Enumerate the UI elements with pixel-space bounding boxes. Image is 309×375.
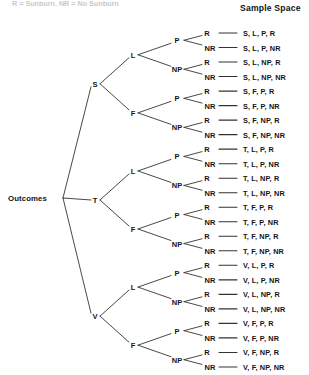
sample-space-outcome: V, F, NP, R	[243, 348, 279, 357]
sample-space-outcome: T, F, NP, R	[243, 232, 279, 241]
node-level1-S: S	[92, 79, 97, 88]
sample-space-outcome: V, F, P, R	[243, 319, 274, 328]
sample-space-outcome: V, L, P, NR	[243, 275, 280, 284]
sample-space-outcome: S, L, P, R	[243, 29, 275, 38]
node-level3-NP-5: NP	[172, 181, 183, 190]
leaf-branch-label: R	[204, 261, 210, 270]
leaf-branch-label: R	[204, 203, 210, 212]
sample-space-outcome: S, L, P, NR	[243, 43, 281, 52]
node-level2-F-5: F	[131, 341, 136, 350]
sample-space-outcome: V, L, NP, NR	[243, 304, 285, 313]
leaf-branch-label: NR	[204, 275, 215, 284]
node-level3-NP-7: NP	[172, 239, 183, 248]
node-level1-V: V	[92, 312, 97, 321]
sample-space-outcome: S, F, P, R	[243, 87, 274, 96]
sample-space-outcome: S, L, NP, R	[243, 58, 281, 67]
leaf-branch-label: R	[204, 319, 210, 328]
leaf-branch-label: R	[204, 145, 210, 154]
leaf-branch-label: NR	[204, 217, 215, 226]
node-level3-P-10: P	[174, 326, 179, 335]
sample-space-outcome: T, F, P, R	[243, 203, 273, 212]
sample-space-outcome: S, L, NP, NR	[243, 72, 286, 81]
leaf-branch-label: NR	[204, 43, 215, 52]
node-level3-NP-1: NP	[172, 65, 183, 74]
node-level3-NP-3: NP	[172, 123, 183, 132]
sample-space-outcome: S, F, NP, R	[243, 116, 280, 125]
node-level3-P-2: P	[174, 94, 179, 103]
node-level1-T: T	[93, 195, 98, 204]
sample-space-header: Sample Space	[240, 3, 301, 13]
leaf-branch-label: NR	[204, 101, 215, 110]
sample-space-outcome: T, L, NP, R	[243, 174, 279, 183]
sample-space-outcome: S, F, P, NR	[243, 101, 280, 110]
leaf-branch-label: R	[204, 58, 210, 67]
node-level3-P-4: P	[174, 152, 179, 161]
sample-space-outcome: V, F, P, NR	[243, 333, 279, 342]
sample-space-outcome: T, L, P, NR	[243, 159, 279, 168]
leaf-branch-label: NR	[204, 159, 215, 168]
node-level2-L-0: L	[131, 50, 136, 59]
node-level3-P-8: P	[174, 268, 179, 277]
sample-space-outcome: T, L, P, R	[243, 145, 274, 154]
leaf-branch-label: R	[204, 348, 210, 357]
leaf-branch-label: NR	[204, 304, 215, 313]
node-level2-F-1: F	[131, 108, 136, 117]
leaf-branch-label: NR	[204, 333, 215, 342]
leaf-branch-label: NR	[204, 246, 215, 255]
top-cut-caption: R = Sunburn, NR = No Sunburn	[12, 0, 119, 6]
leaf-branch-label: NR	[204, 130, 215, 139]
sample-space-outcome: S, F, NP, NR	[243, 130, 285, 139]
root-node-outcomes: Outcomes	[8, 194, 47, 203]
sample-space-outcome: T, L, NP, NR	[243, 188, 285, 197]
node-level2-L-2: L	[131, 166, 136, 175]
node-level3-NP-11: NP	[172, 355, 183, 364]
sample-space-outcome: V, L, P, R	[243, 261, 275, 270]
leaf-branch-label: R	[204, 116, 210, 125]
leaf-branch-label: R	[204, 174, 210, 183]
node-level3-P-6: P	[174, 210, 179, 219]
node-level2-L-4: L	[131, 283, 136, 292]
node-level3-NP-9: NP	[172, 297, 183, 306]
leaf-branch-label: NR	[204, 188, 215, 197]
leaf-branch-label: R	[204, 290, 210, 299]
node-level2-F-3: F	[131, 225, 136, 234]
sample-space-outcome: T, F, NP, NR	[243, 246, 284, 255]
sample-space-outcome: V, F, NP, NR	[243, 362, 285, 371]
leaf-branch-label: R	[204, 232, 210, 241]
node-level3-P-0: P	[174, 36, 179, 45]
sample-space-outcome: T, F, P, NR	[243, 217, 279, 226]
leaf-branch-label: R	[204, 87, 210, 96]
leaf-branch-label: NR	[204, 72, 215, 81]
probability-tree-diagram: R = Sunburn, NR = No Sunburn Sample Spac…	[0, 0, 309, 375]
leaf-branch-label: R	[204, 29, 210, 38]
leaf-branch-label: NR	[204, 362, 215, 371]
sample-space-outcome: V, L, NP, R	[243, 290, 280, 299]
